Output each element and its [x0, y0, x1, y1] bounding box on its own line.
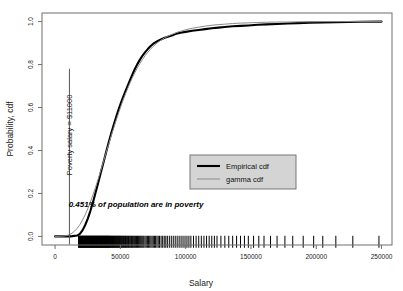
y-tick-label: 0.2 — [27, 189, 34, 198]
y-tick-label: 0.6 — [27, 103, 34, 112]
x-axis-title: Salary — [189, 278, 214, 288]
x-tick-label: 100000 — [175, 253, 197, 260]
x-tick-label: 150000 — [240, 253, 262, 260]
y-tick-label: 0.0 — [27, 232, 34, 241]
x-tick-label: 250000 — [371, 253, 393, 260]
y-tick-label: 0.4 — [27, 146, 34, 155]
x-tick-label: 200000 — [305, 253, 327, 260]
y-axis-title: Probability, cdf — [5, 101, 15, 157]
x-tick-label: 50000 — [111, 253, 129, 260]
x-tick-label: 0 — [53, 253, 57, 260]
poverty-annotation: 0.451% of population are in poverty — [69, 200, 204, 209]
legend-label: Empirical cdf — [226, 162, 270, 171]
cdf-chart: 050000100000150000200000250000 0.00.20.4… — [0, 0, 403, 291]
chart-legend[interactable]: Empirical cdfgamma cdf — [190, 155, 296, 189]
y-tick-label: 1.0 — [27, 17, 34, 26]
legend-label: gamma cdf — [226, 175, 264, 184]
poverty-vline-label: Poverty salary = $11000 — [65, 95, 74, 176]
y-tick-label: 0.8 — [27, 60, 34, 69]
plot-canvas: 050000100000150000200000250000 0.00.20.4… — [0, 0, 403, 291]
